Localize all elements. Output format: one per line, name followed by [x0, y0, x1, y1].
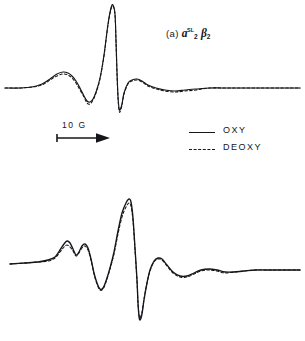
panel-label-a-symbol-alpha: aSL2 — [182, 27, 198, 39]
legend-key-solid — [189, 132, 215, 135]
panel-label-a-paren: (a) — [166, 28, 179, 39]
panel-label-a-symbol-beta: β2 — [201, 27, 211, 39]
legend-row-deoxy: DEOXY — [189, 142, 299, 159]
legend-row-oxy: OXY — [189, 125, 299, 142]
legend-key-dashed — [189, 149, 215, 152]
legend-label-oxy: OXY — [223, 125, 247, 135]
panel-label-a: (a)aSL2β2 — [166, 28, 211, 41]
spectrum-plot-b — [0, 170, 305, 341]
esr-spectra-figure: (a)aSL2β2 10 G OXY DEOXY (b)a2βSL2 — [0, 0, 305, 341]
panel-label-a-beta-subscript: 2 — [207, 33, 211, 40]
spectrum-panel-b: (b)a2βSL2 — [0, 170, 305, 341]
legend: OXY DEOXY — [189, 125, 299, 159]
scale-bar-label: 10 G — [62, 120, 87, 130]
scale-bar: 10 G — [56, 120, 116, 150]
trace-deoxy-panel-a — [5, 6, 300, 113]
trace-oxy-panel-a — [5, 5, 300, 111]
scale-bar-arrow-icon — [56, 131, 116, 149]
legend-label-deoxy: DEOXY — [223, 142, 262, 152]
panel-label-a-alpha-subscript: 2 — [194, 33, 198, 40]
